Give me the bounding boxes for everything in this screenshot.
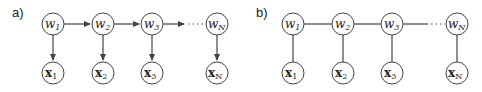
node-w1: w1 [42,13,64,35]
node-x3: x3 [141,62,163,84]
node-xN: xN [206,62,228,84]
node-w2: w2 [332,13,354,35]
node-w1: w1 [282,13,304,35]
panel-label: a) [12,5,24,20]
node-x1: x1 [42,62,64,84]
node-wN: wN [206,13,228,35]
diagram-canvas: a) w1 w2 w3 wN x1 x2 x3 xN b) [0,0,482,92]
node-x2: x2 [92,62,114,84]
node-x2: x2 [332,62,354,84]
node-w3: w3 [381,13,403,35]
panel-label: b) [256,5,268,20]
panel-b: b) w1 w2 w3 wN x1 x2 x3 xN [256,5,468,84]
node-wN: wN [446,13,468,35]
node-xN: xN [446,62,468,84]
node-w2: w2 [92,13,114,35]
node-x3: x3 [381,62,403,84]
node-x1: x1 [282,62,304,84]
node-w3: w3 [141,13,163,35]
panel-a: a) w1 w2 w3 wN x1 x2 x3 xN [12,5,228,84]
